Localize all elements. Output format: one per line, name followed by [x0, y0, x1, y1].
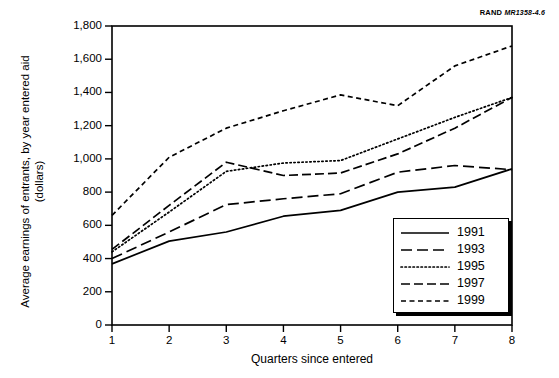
y-tick-label: 1,200: [50, 119, 102, 131]
x-tick-label: 3: [214, 334, 238, 346]
series-line-1999: [112, 46, 512, 215]
y-tick-label: 400: [50, 252, 102, 264]
y-tick-label: 0: [50, 318, 102, 330]
x-tick-label: 8: [500, 334, 524, 346]
y-axis-title: Average earnings of entrants, by year en…: [19, 32, 46, 332]
legend-label: 1991: [457, 226, 485, 239]
y-tick-label: 1,600: [50, 52, 102, 64]
x-tick-label: 7: [443, 334, 467, 346]
x-tick-label: 2: [157, 334, 181, 346]
legend-label: 1999: [457, 294, 485, 307]
y-tick-label: 1,000: [50, 152, 102, 164]
y-axis-title-line1: Average earnings of entrants, by year en…: [19, 55, 31, 307]
legend-line-sample: [400, 262, 450, 272]
x-tick-label: 5: [329, 334, 353, 346]
legend-item-1995: 1995: [400, 258, 502, 275]
legend-item-1999: 1999: [400, 292, 502, 309]
y-tick-label: 1,400: [50, 85, 102, 97]
legend-item-1991: 1991: [400, 224, 502, 241]
x-tick-label: 4: [271, 334, 295, 346]
x-axis-title: Quarters since entered: [112, 352, 512, 366]
y-axis-title-line2: (dollars): [32, 161, 44, 203]
x-tick-label: 6: [386, 334, 410, 346]
legend-line-sample: [400, 228, 450, 238]
legend-label: 1995: [457, 260, 485, 273]
y-tick-label: 1,800: [50, 19, 102, 31]
chart-legend: 19911993199519971999: [393, 218, 509, 313]
x-tick-label: 1: [100, 334, 124, 346]
legend-line-sample: [400, 296, 450, 306]
legend-line-sample: [400, 245, 450, 255]
y-tick-label: 600: [50, 218, 102, 230]
legend-label: 1993: [457, 243, 485, 256]
legend-label: 1997: [457, 277, 485, 290]
legend-item-1997: 1997: [400, 275, 502, 292]
y-tick-label: 800: [50, 185, 102, 197]
legend-item-1993: 1993: [400, 241, 502, 258]
legend-line-sample: [400, 279, 450, 289]
y-tick-label: 200: [50, 285, 102, 297]
